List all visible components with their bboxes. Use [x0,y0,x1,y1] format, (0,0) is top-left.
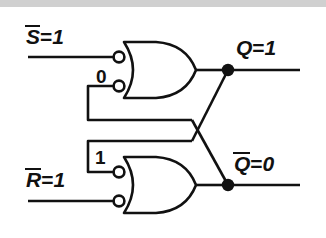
label-q-bar: Q=0 [234,152,274,174]
gate-top-bubble-upper-icon [114,52,125,63]
gate-bottom-body [124,157,196,213]
junction-dot-q [222,64,234,76]
label-bottom-gate-feedback-value: 1 [95,148,106,167]
gate-bottom-bubble-lower-icon [114,196,125,207]
label-set-bar-name: S [26,25,40,47]
label-set-bar-equals: = [40,25,52,48]
label-q-value: 1 [265,36,277,59]
label-reset-bar-name: R [26,168,41,190]
label-reset-bar-value: 1 [53,168,65,191]
junction-dot-qbar [222,179,234,191]
gate-top-bubble-lower-icon [114,81,125,92]
gate-bottom-bubble-upper-icon [114,167,125,178]
gate-top-body [124,42,196,98]
wire-top-gate-feedback-stub [88,86,192,120]
wire-cross-qbar-to-top-gate [192,120,228,185]
label-reset-bar: R=1 [26,168,65,190]
figure-canvas: S=1 R=1 Q=1 Q=0 0 1 [0,0,326,238]
label-q-bar-value: 0 [263,152,275,175]
label-top-gate-feedback-value: 0 [96,67,107,86]
label-q: Q=1 [236,37,276,58]
label-q-bar-name: Q [234,152,250,174]
label-reset-bar-equals: = [41,168,53,191]
label-q-name: Q [236,36,252,59]
label-set-bar-value: 1 [52,25,64,48]
label-q-bar-equals: = [250,152,262,175]
label-q-equals: = [252,36,264,59]
label-set-bar: S=1 [26,25,64,47]
